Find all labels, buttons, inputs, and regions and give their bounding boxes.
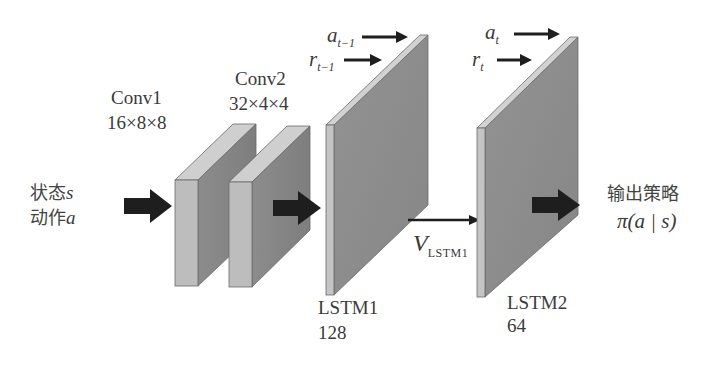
- a-var: a: [485, 20, 496, 44]
- a-t-arrow: [514, 28, 560, 40]
- r-t-minus-1-label: rt−1: [309, 48, 335, 78]
- lstm2-size-label: 64: [507, 315, 526, 337]
- r-var: r: [472, 47, 480, 71]
- conv1-front-face: [175, 180, 198, 286]
- action-var: a: [66, 207, 76, 228]
- v-lstm1-label: VLSTM1: [413, 232, 468, 264]
- r-sub: t−1: [317, 60, 334, 74]
- lstm2-panel: [477, 37, 578, 297]
- conv1-size-label: 16×8×8: [107, 112, 166, 134]
- input-action-label: 动作a: [30, 207, 76, 229]
- r-t-arrow: [497, 54, 532, 66]
- output-policy-label: 输出策略: [607, 183, 679, 205]
- conv1-name-label: Conv1: [111, 87, 162, 109]
- lstm1-name-label: LSTM1: [318, 297, 378, 319]
- a-sub: t: [496, 33, 499, 47]
- input-arrow: [124, 189, 172, 223]
- conv2-front-face: [229, 182, 252, 287]
- state-var: s: [66, 182, 73, 203]
- action-cjk-text: 动作: [30, 207, 66, 228]
- a-sub: t−1: [338, 36, 355, 50]
- v-sub: LSTM1: [428, 246, 469, 260]
- conv2-size-label: 32×4×4: [229, 93, 288, 115]
- v-var: V: [413, 230, 428, 256]
- lstm1-front-edge: [326, 125, 334, 295]
- a-t-label: at: [485, 21, 499, 51]
- output-formula: π(a | s): [617, 210, 676, 232]
- a-t-minus-1-arrow: [362, 31, 408, 43]
- r-t-minus-1-arrow: [344, 54, 382, 66]
- r-sub: t: [480, 60, 483, 74]
- lstm2-front-edge: [477, 128, 485, 297]
- conv2-name-label: Conv2: [235, 68, 286, 90]
- a-var: a: [327, 23, 338, 47]
- r-t-label: rt: [472, 48, 484, 78]
- lstm1-size-label: 128: [318, 322, 347, 344]
- v-lstm1-arrow: [408, 215, 480, 225]
- input-state-label: 状态s: [30, 182, 73, 204]
- r-var: r: [309, 47, 317, 71]
- state-cjk-text: 状态: [30, 182, 66, 203]
- lstm2-name-label: LSTM2: [507, 292, 567, 314]
- output-cjk-text: 输出策略: [607, 183, 679, 204]
